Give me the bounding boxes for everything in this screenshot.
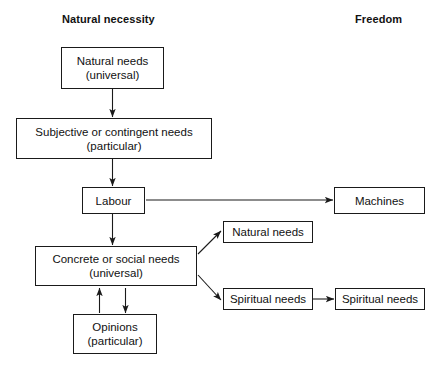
- node-line-1: Labour: [96, 194, 132, 208]
- node-labour[interactable]: Labour: [82, 187, 145, 214]
- node-spiritual-needs-right[interactable]: Spiritual needs: [335, 288, 425, 310]
- node-natural-needs-right[interactable]: Natural needs: [223, 221, 313, 243]
- node-line-1: Concrete or social needs: [52, 252, 179, 266]
- edge-concrete-to-spiritual-needs: [198, 275, 221, 300]
- node-line-1: Subjective or contingent needs: [35, 125, 192, 139]
- node-natural-needs-universal[interactable]: Natural needs (universal): [61, 47, 164, 89]
- node-line-1: Natural needs: [232, 225, 304, 239]
- node-machines[interactable]: Machines: [334, 187, 425, 214]
- node-subjective-or-contingent-needs[interactable]: Subjective or contingent needs (particul…: [16, 118, 212, 159]
- node-concrete-or-social-needs[interactable]: Concrete or social needs (universal): [35, 246, 197, 286]
- node-spiritual-needs-left[interactable]: Spiritual needs: [223, 288, 313, 310]
- node-line-1: Spiritual needs: [230, 292, 306, 306]
- node-line-1: Spiritual needs: [342, 292, 418, 306]
- node-line-2: (universal): [86, 68, 140, 82]
- node-line-2: (particular): [87, 139, 142, 153]
- node-line-2: (universal): [89, 266, 143, 280]
- node-line-1: Natural needs: [77, 54, 149, 68]
- node-opinions[interactable]: Opinions (particular): [73, 314, 157, 354]
- node-line-1: Opinions: [92, 320, 137, 334]
- node-line-1: Machines: [355, 194, 404, 208]
- diagram-canvas: Natural necessity Freedom Natural needs …: [0, 0, 443, 370]
- edge-concrete-to-natural-needs-right: [198, 231, 221, 254]
- node-line-2: (particular): [88, 334, 143, 348]
